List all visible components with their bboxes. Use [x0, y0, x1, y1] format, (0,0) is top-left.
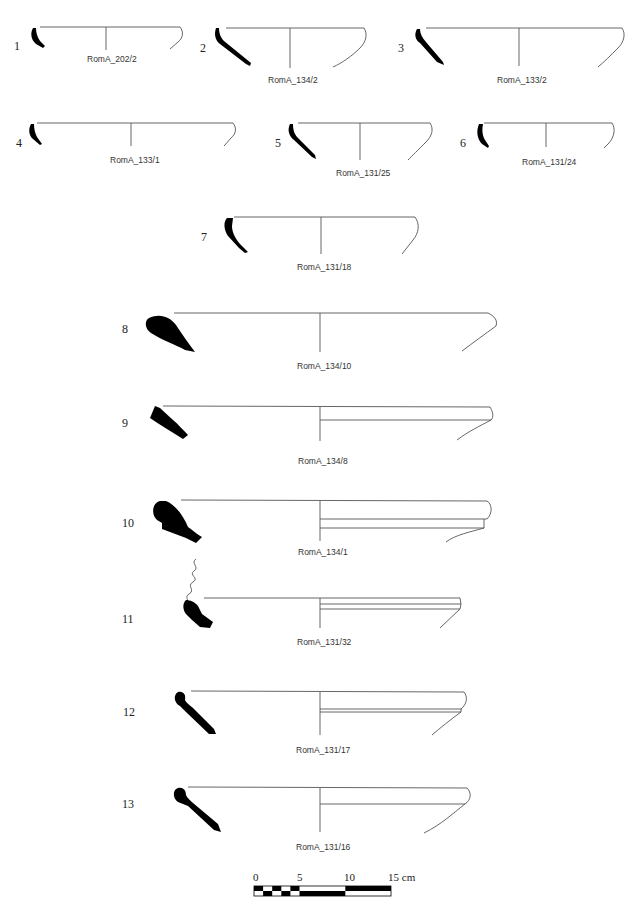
vessel-profile-4: 4 RomA_133/1 — [16, 123, 235, 165]
item-label: RomA_133/2 — [497, 75, 547, 85]
item-number: 2 — [200, 41, 206, 55]
vessel-profile-12: 12 RomA_131/17 — [123, 691, 466, 755]
sherd-section — [175, 692, 216, 734]
item-number: 13 — [122, 797, 134, 811]
item-label: RomA_131/24 — [522, 157, 577, 167]
vessel-profile-7: 7 RomA_131/18 — [201, 217, 418, 272]
pottery-plate: 1 RomA_202/2 2 RomA_134/2 3 RomA_133/2 4… — [0, 0, 637, 906]
vessel-profile-1: 1 RomA_202/2 — [14, 27, 182, 64]
item-label: RomA_202/2 — [87, 54, 137, 64]
sherd-section — [477, 124, 489, 148]
item-label: RomA_133/1 — [110, 155, 160, 165]
item-number: 8 — [122, 322, 128, 336]
item-label: RomA_134/2 — [268, 75, 318, 85]
scale-tick-5: 5 — [297, 871, 303, 883]
item-label: RomA_134/1 — [298, 547, 348, 557]
sherd-section — [150, 406, 188, 439]
item-label: RomA_131/18 — [297, 262, 352, 272]
item-label: RomA_134/8 — [298, 456, 348, 466]
item-label: RomA_131/16 — [296, 842, 351, 852]
sherd-section — [215, 28, 251, 66]
vessel-profile-13: 13 RomA_131/16 — [122, 787, 470, 852]
sherd-section — [289, 124, 316, 159]
item-number: 4 — [16, 136, 22, 150]
vessel-profile-9: 9 RomA_134/8 — [122, 406, 493, 466]
item-number: 11 — [122, 612, 134, 626]
scale-bar: 0 5 10 15 cm — [253, 871, 416, 896]
vessel-profile-3: 3 RomA_133/2 — [398, 28, 624, 85]
scale-tick-15: 15 cm — [388, 871, 416, 883]
sherd-section — [146, 316, 195, 352]
sherd-section — [183, 600, 213, 628]
sherd-section — [29, 124, 42, 145]
vessel-profile-6: 6 RomA_131/24 — [460, 123, 614, 167]
vessel-profile-10: 10 RomA_134/1 — [122, 500, 491, 557]
scale-tick-0: 0 — [253, 871, 259, 883]
item-label: RomA_131/25 — [336, 168, 391, 178]
item-number: 3 — [398, 41, 404, 55]
fracture-line — [186, 559, 196, 602]
sherd-section — [31, 28, 45, 48]
item-number: 1 — [14, 39, 20, 53]
item-number: 10 — [122, 516, 134, 530]
vessel-profile-2: 2 RomA_134/2 — [200, 28, 366, 85]
vessel-profile-8: 8 RomA_134/10 — [122, 313, 497, 371]
item-label: RomA_134/10 — [297, 361, 352, 371]
item-number: 9 — [122, 416, 128, 430]
vessel-profile-11: 11 RomA_131/32 — [122, 559, 461, 647]
item-label: RomA_131/17 — [296, 745, 351, 755]
vessel-profile-5: 5 RomA_131/25 — [275, 123, 432, 178]
item-number: 7 — [201, 230, 207, 244]
item-number: 12 — [123, 705, 135, 719]
sherd-section — [153, 501, 202, 543]
sherd-section — [174, 788, 221, 832]
sherd-section — [415, 29, 444, 65]
scale-tick-10: 10 — [344, 871, 356, 883]
item-number: 6 — [460, 136, 466, 150]
item-label: RomA_131/32 — [297, 637, 352, 647]
item-number: 5 — [275, 136, 281, 150]
sherd-section — [224, 218, 248, 253]
